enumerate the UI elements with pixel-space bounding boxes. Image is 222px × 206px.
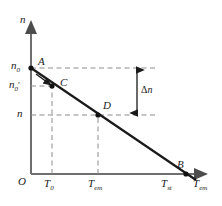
figure-canvas: [0, 0, 222, 206]
characteristic-line: [31, 68, 196, 180]
point-label-b: B: [177, 159, 184, 170]
x-tick-label-tst: Tst: [161, 178, 172, 189]
y-tick-label-n: n: [17, 108, 23, 119]
point-dot-b: [183, 171, 188, 176]
delta-n-label: Δn: [141, 85, 152, 95]
x-axis-label: Tem: [193, 178, 207, 189]
point-label-d: D: [103, 100, 111, 111]
y-axis-label: n: [20, 14, 26, 25]
speed-torque-figure: n O Tem n0 n0′ n T0 Tem Tst A C D B Δn: [0, 0, 222, 206]
point-dot-d: [95, 112, 100, 117]
point-label-a: A: [38, 56, 45, 67]
point-dot-c: [49, 83, 54, 88]
y-tick-label-n0: n0: [11, 60, 20, 71]
x-tick-label-t0: T0: [44, 178, 54, 189]
y-tick-label-n0-prime: n0′: [9, 79, 20, 90]
x-tick-label-tem: Tem: [88, 178, 102, 189]
origin-label: O: [18, 176, 26, 187]
point-label-c: C: [60, 77, 67, 88]
point-dot-a: [28, 65, 33, 70]
